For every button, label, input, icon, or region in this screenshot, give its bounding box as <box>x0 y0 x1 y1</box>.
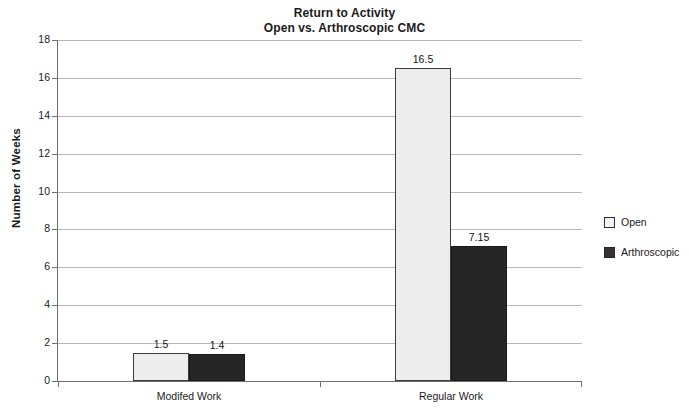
legend-label-open: Open <box>621 217 647 228</box>
x-tick-end-1 <box>581 381 582 387</box>
bar-value-label-open-1: 16.5 <box>395 54 451 65</box>
y-tick-6 <box>52 267 58 268</box>
y-tick-label-0: 0 <box>6 375 50 385</box>
y-tick-label-10: 10 <box>6 186 50 196</box>
x-category-label-1: Regular Work <box>371 390 531 402</box>
y-tick-label-14: 14 <box>6 110 50 120</box>
y-tick-16 <box>52 78 58 79</box>
x-tick-end-0 <box>58 381 59 387</box>
y-tick-18 <box>52 40 58 41</box>
y-axis-tick-labels: 024681012141618 <box>0 0 50 419</box>
legend-swatch-open-icon <box>604 217 615 228</box>
bar-arthroscopic-0[interactable] <box>189 354 245 381</box>
legend-item-open[interactable]: Open <box>604 214 686 230</box>
y-tick-2 <box>52 343 58 344</box>
bar-value-label-arthroscopic-1: 7.15 <box>451 232 507 243</box>
gridline-14 <box>58 116 582 117</box>
chart-legend: Open Arthroscopic <box>604 214 686 274</box>
gridline-12 <box>58 154 582 155</box>
y-tick-4 <box>52 305 58 306</box>
y-tick-0 <box>52 381 58 382</box>
x-category-label-0: Modifed Work <box>109 390 269 402</box>
bar-value-label-open-0: 1.5 <box>133 339 189 350</box>
y-tick-12 <box>52 154 58 155</box>
y-tick-label-12: 12 <box>6 148 50 158</box>
y-tick-label-2: 2 <box>6 337 50 347</box>
gridline-18 <box>58 40 582 41</box>
bar-value-label-arthroscopic-0: 1.4 <box>189 340 245 351</box>
bar-arthroscopic-1[interactable] <box>451 246 507 381</box>
plot-area: 1.51.4Modifed Work16.57.15Regular Work <box>58 40 582 381</box>
legend-item-arthroscopic[interactable]: Arthroscopic <box>604 244 686 260</box>
legend-swatch-arthroscopic-icon <box>604 247 615 258</box>
gridline-8 <box>58 229 582 230</box>
y-tick-label-18: 18 <box>6 34 50 44</box>
bar-open-0[interactable] <box>133 353 189 381</box>
y-tick-label-8: 8 <box>6 223 50 233</box>
y-tick-label-6: 6 <box>6 261 50 271</box>
chart-title: Return to Activity Open vs. Arthroscopic… <box>0 6 689 36</box>
y-tick-label-16: 16 <box>6 72 50 82</box>
gridline-10 <box>58 192 582 193</box>
y-tick-label-4: 4 <box>6 299 50 309</box>
x-tick-1 <box>320 381 321 387</box>
y-tick-10 <box>52 192 58 193</box>
chart-title-line-2: Open vs. Arthroscopic CMC <box>0 21 689 36</box>
gridline-16 <box>58 78 582 79</box>
y-tick-8 <box>52 229 58 230</box>
bar-open-1[interactable] <box>395 68 451 381</box>
y-tick-14 <box>52 116 58 117</box>
legend-label-arthroscopic: Arthroscopic <box>621 247 679 258</box>
chart-title-line-1: Return to Activity <box>0 6 689 21</box>
